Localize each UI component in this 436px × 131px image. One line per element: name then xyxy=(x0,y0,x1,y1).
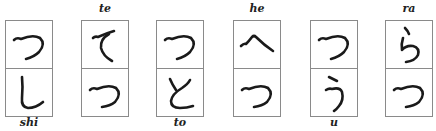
kana-box xyxy=(233,20,281,117)
top-label: ra xyxy=(385,2,433,15)
lower-cell xyxy=(234,69,280,116)
lower-cell xyxy=(6,69,52,116)
tsu-glyph-icon xyxy=(314,24,354,65)
upper-cell xyxy=(234,21,280,69)
u-glyph-icon xyxy=(314,72,354,113)
upper-cell xyxy=(6,21,52,69)
te-glyph-icon xyxy=(85,24,125,65)
kana-box xyxy=(156,20,204,117)
upper-cell xyxy=(386,21,432,69)
kana-box xyxy=(310,20,358,117)
kana-column-2: te xyxy=(81,0,129,131)
kana-box xyxy=(81,20,129,117)
kana-box xyxy=(385,20,433,117)
ra-glyph-icon xyxy=(389,24,429,65)
tsu-glyph-icon xyxy=(9,24,49,65)
upper-cell xyxy=(157,21,203,69)
bottom-label: shi xyxy=(5,116,53,129)
tsu-glyph-icon xyxy=(160,24,200,65)
kana-box xyxy=(5,20,53,117)
top-label: he xyxy=(233,2,281,15)
tsu-glyph-icon xyxy=(85,72,125,113)
kana-column-6: ra xyxy=(385,0,433,131)
upper-cell xyxy=(82,21,128,69)
shi-glyph-icon xyxy=(9,72,49,113)
kana-column-5: u xyxy=(310,0,358,131)
to-glyph-icon xyxy=(160,72,200,113)
bottom-label: to xyxy=(156,116,204,129)
lower-cell xyxy=(82,69,128,116)
top-label: te xyxy=(81,2,129,15)
lower-cell xyxy=(386,69,432,116)
lower-cell xyxy=(311,69,357,116)
kana-column-4: he xyxy=(233,0,281,131)
kana-column-1: shi xyxy=(5,0,53,131)
tsu-glyph-icon xyxy=(237,72,277,113)
kana-column-3: to xyxy=(156,0,204,131)
upper-cell xyxy=(311,21,357,69)
tsu-glyph-icon xyxy=(389,72,429,113)
bottom-label: u xyxy=(310,116,358,129)
lower-cell xyxy=(157,69,203,116)
he-glyph-icon xyxy=(237,24,277,65)
